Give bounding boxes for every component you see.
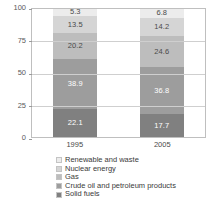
y-axis-tickmark xyxy=(29,74,32,75)
x-axis: 19952005 xyxy=(31,140,206,152)
x-axis-tick-label: 1995 xyxy=(53,140,97,149)
chart-legend: Renewable and wasteNuclear energyGasCrud… xyxy=(56,156,212,199)
legend-swatch-icon xyxy=(56,192,62,198)
y-axis-tick-label: 100 xyxy=(0,4,26,12)
y-axis-tick-label: 50 xyxy=(0,69,26,77)
legend-swatch-icon xyxy=(56,166,62,172)
legend-swatch-icon xyxy=(56,183,62,189)
gridline xyxy=(32,106,205,107)
bar-segment-value-label: 17.7 xyxy=(154,122,169,130)
bar-segment[interactable]: 17.7 xyxy=(140,114,184,137)
gridline xyxy=(32,41,205,42)
bar-segment[interactable]: 22.1 xyxy=(53,109,97,137)
bar-segment-value-label: 38.9 xyxy=(68,80,83,88)
y-axis-tickmark xyxy=(29,9,32,10)
gridline xyxy=(32,74,205,75)
y-axis-tick-label: 75 xyxy=(0,37,26,45)
y-axis: 0255075100 xyxy=(0,8,30,138)
plot-wrapper: 0255075100 5.313.520.238.922.16.814.224.… xyxy=(0,8,212,138)
legend-item-label: Solid fuels xyxy=(65,190,100,199)
y-axis-tickmark xyxy=(29,41,32,42)
legend-swatch-icon xyxy=(56,174,62,180)
bar-segment-value-label: 20.2 xyxy=(68,42,83,50)
x-axis-tick-label: 2005 xyxy=(140,140,184,149)
legend-item[interactable]: Nuclear energy xyxy=(56,165,212,174)
bar-segment[interactable]: 14.2 xyxy=(140,18,184,36)
legend-swatch-icon xyxy=(56,157,62,163)
y-axis-tickmark xyxy=(29,106,32,107)
bar-segment[interactable]: 38.9 xyxy=(53,59,97,109)
bar-segment[interactable]: 20.2 xyxy=(53,33,97,59)
bar-segment[interactable]: 6.8 xyxy=(140,9,184,18)
plot-area: 5.313.520.238.922.16.814.224.636.817.7 xyxy=(31,8,206,138)
bar-segment-value-label: 22.1 xyxy=(68,119,83,127)
y-axis-tick-label: 25 xyxy=(0,102,26,110)
y-axis-tick-label: 0 xyxy=(0,134,26,142)
legend-item[interactable]: Solid fuels xyxy=(56,190,212,199)
bar-segment[interactable]: 5.3 xyxy=(53,9,97,16)
bar-segment-value-label: 14.2 xyxy=(154,23,169,31)
bar-segment[interactable]: 13.5 xyxy=(53,16,97,33)
bar-segment-value-label: 6.8 xyxy=(156,9,167,17)
bar-segment-value-label: 36.8 xyxy=(154,87,169,95)
bar-segment-value-label: 13.5 xyxy=(68,21,83,29)
bar-segment-value-label: 24.6 xyxy=(154,48,169,56)
stacked-bar-chart: 0255075100 5.313.520.238.922.16.814.224.… xyxy=(0,0,212,200)
